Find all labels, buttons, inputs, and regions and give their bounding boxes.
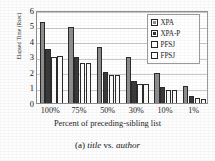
bar: [154, 73, 159, 103]
legend-swatch-fill: [153, 32, 157, 36]
bar: [57, 56, 62, 103]
legend-swatch-icon: [151, 19, 158, 26]
caption-connector: vs.: [103, 140, 113, 150]
figure-caption: (a) title vs. author: [0, 139, 215, 151]
legend-item-fpsj[interactable]: FPSJ: [151, 50, 197, 61]
x-axis-tick-labels: 100%75%50%30%10%1%: [36, 106, 208, 118]
bar-group: [66, 12, 95, 103]
legend-swatch-fill: [153, 43, 157, 47]
bar: [51, 57, 56, 104]
bar: [201, 99, 206, 103]
legend-item-xpa-p[interactable]: XPA-P: [151, 28, 197, 39]
caption-index: (a): [75, 140, 85, 150]
bar-group: [94, 12, 123, 103]
figure-panel: Elapsed Time (Rsec) 0123456 100%75%50%30…: [0, 0, 215, 161]
bar: [143, 84, 148, 103]
bar: [103, 72, 108, 103]
y-axis-tick-label: 0: [20, 100, 34, 108]
legend-item-xpa[interactable]: XPA: [151, 17, 197, 28]
x-axis-tick-label: 10%: [149, 106, 181, 116]
legend-label: FPSJ: [161, 52, 175, 60]
x-axis-tick-label: 100%: [34, 106, 66, 116]
bar: [109, 75, 114, 103]
x-axis-tick-label: 1%: [178, 106, 210, 116]
legend-label: XPA-P: [161, 30, 181, 38]
x-axis-tick-label: 30%: [120, 106, 152, 116]
bar: [115, 75, 120, 103]
caption-term-two: author: [116, 140, 140, 150]
bar-group: [37, 12, 66, 103]
legend-label: PFSJ: [161, 41, 175, 49]
y-axis-tick-label: 4: [20, 38, 34, 46]
x-axis-tick-label: 50%: [92, 106, 124, 116]
bar: [86, 63, 91, 103]
bar: [68, 27, 73, 103]
legend-swatch-fill: [153, 21, 157, 25]
bar: [183, 86, 188, 103]
y-axis-tick-label: 1: [20, 84, 34, 92]
y-axis-tick-label: 6: [20, 7, 34, 15]
y-axis-tick-label: 3: [20, 53, 34, 61]
legend-swatch-icon: [151, 52, 158, 59]
bar: [74, 57, 79, 104]
bar: [97, 47, 102, 103]
legend: XPAXPA-PPFSJFPSJ: [147, 14, 200, 64]
legend-label: XPA: [161, 19, 174, 27]
bar: [80, 63, 85, 103]
legend-swatch-icon: [151, 30, 158, 37]
caption-term-one: title: [87, 140, 101, 150]
x-axis-title: Percent of preceding-sibling list: [0, 118, 215, 129]
bar: [126, 57, 131, 103]
y-axis-tick-label: 2: [20, 69, 34, 77]
x-axis-tick-label: 75%: [63, 106, 95, 116]
bar: [131, 81, 136, 103]
bar: [172, 90, 177, 103]
bar: [166, 90, 171, 103]
legend-swatch-fill: [153, 54, 157, 58]
bar: [45, 49, 50, 103]
bar: [189, 96, 194, 103]
bar: [195, 98, 200, 103]
bar: [160, 87, 165, 103]
bar: [40, 22, 45, 103]
legend-item-pfsj[interactable]: PFSJ: [151, 39, 197, 50]
bar: [137, 84, 142, 103]
legend-swatch-icon: [151, 41, 158, 48]
y-axis-tick-label: 5: [20, 22, 34, 30]
